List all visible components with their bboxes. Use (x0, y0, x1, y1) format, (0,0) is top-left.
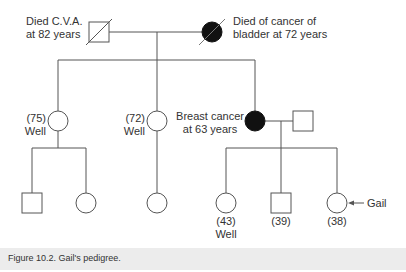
figure-caption: Figure 10.2. Gail's pedigree. (8, 253, 121, 263)
proband-label: Gail (367, 197, 387, 210)
gail-circle (327, 193, 347, 213)
arrow-head-icon (348, 201, 354, 206)
sister-circle (216, 193, 236, 213)
aunt2-circle (147, 111, 167, 131)
cousin1-square (22, 193, 42, 213)
father-square (293, 111, 313, 131)
mother-filled-circle (245, 111, 265, 131)
aunt1-circle (48, 111, 68, 131)
sister-label: (43) Well (206, 215, 246, 241)
grandfather-label: Died C.V.A. at 82 years (26, 15, 82, 41)
brother-label: (39) (261, 215, 301, 228)
cousin2-circle (76, 193, 96, 213)
grandmother-label: Died of cancer of bladder at 72 years (233, 15, 327, 41)
aunt2-label: (72) Well (121, 112, 145, 138)
gail-age-label: (38) (317, 215, 357, 228)
mother-label: Breast cancer at 63 years (174, 110, 246, 136)
brother-square (271, 193, 291, 213)
caption-bar: Figure 10.2. Gail's pedigree. (0, 248, 406, 270)
aunt1-label: (75) Well (22, 112, 46, 138)
cousin3-circle (147, 193, 167, 213)
